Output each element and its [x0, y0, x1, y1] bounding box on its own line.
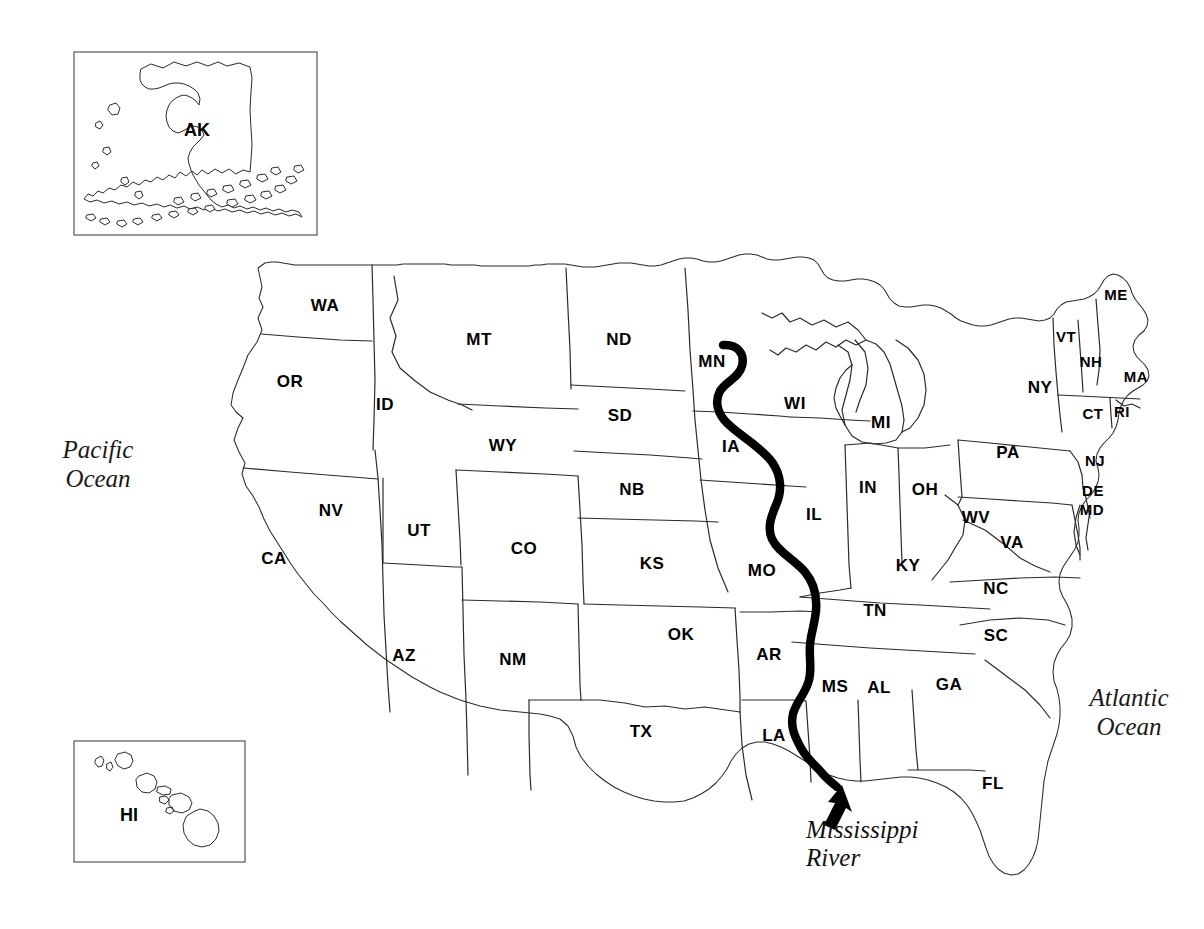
- state-label-co: CO: [511, 539, 538, 558]
- state-label-ri: RI: [1114, 403, 1130, 420]
- state-label-pa: PA: [996, 443, 1019, 462]
- state-label-ar: AR: [756, 645, 782, 664]
- state-label-ms: MS: [822, 677, 849, 696]
- state-label-tx: TX: [630, 722, 653, 741]
- state-label-mn: MN: [698, 352, 725, 371]
- river-label-line1: Mississippi: [805, 816, 919, 843]
- state-label-mo: MO: [748, 561, 776, 580]
- state-label-il: IL: [806, 505, 822, 524]
- atlantic-ocean-line2: Ocean: [1096, 713, 1161, 740]
- state-label-ga: GA: [936, 675, 963, 694]
- us-map: AK HI: [0, 0, 1204, 929]
- state-label-oh: OH: [912, 480, 939, 499]
- state-label-nj: NJ: [1085, 452, 1105, 469]
- state-label-wa: WA: [311, 296, 339, 315]
- hawaii-inset-label: HI: [120, 805, 138, 825]
- state-label-wv: WV: [962, 508, 991, 527]
- state-label-la: LA: [762, 726, 786, 745]
- state-label-me: ME: [1104, 286, 1128, 303]
- state-label-de: DE: [1082, 482, 1104, 499]
- state-label-nb: NB: [619, 480, 645, 499]
- state-label-wy: WY: [489, 436, 518, 455]
- state-label-ia: IA: [722, 437, 740, 456]
- state-label-ok: OK: [668, 625, 695, 644]
- state-label-or: OR: [277, 372, 304, 391]
- state-label-al: AL: [867, 678, 891, 697]
- state-label-mt: MT: [466, 330, 492, 349]
- state-label-nv: NV: [319, 501, 344, 520]
- alaska-inset-label: AK: [184, 120, 210, 140]
- state-label-nh: NH: [1080, 353, 1103, 370]
- state-label-nm: NM: [499, 650, 526, 669]
- state-label-mi: MI: [871, 413, 891, 432]
- state-label-ct: CT: [1083, 405, 1104, 422]
- state-label-fl: FL: [982, 774, 1004, 793]
- state-label-nd: ND: [606, 330, 632, 349]
- pacific-ocean-line1: Pacific: [62, 436, 134, 463]
- river-label-line2: River: [805, 844, 860, 871]
- state-label-tn: TN: [863, 601, 887, 620]
- state-label-ut: UT: [407, 521, 431, 540]
- state-label-ny: NY: [1028, 378, 1053, 397]
- state-label-in: IN: [859, 478, 877, 497]
- state-label-sc: SC: [984, 626, 1009, 645]
- state-label-id: ID: [376, 395, 394, 414]
- state-label-ca: CA: [261, 549, 287, 568]
- state-label-az: AZ: [392, 646, 416, 665]
- state-label-md: MD: [1080, 501, 1104, 518]
- state-label-nc: NC: [983, 579, 1009, 598]
- state-label-sd: SD: [608, 406, 633, 425]
- state-label-ma: MA: [1124, 368, 1148, 385]
- atlantic-ocean-line1: Atlantic: [1087, 684, 1168, 711]
- state-label-va: VA: [1000, 533, 1023, 552]
- pacific-ocean-line2: Ocean: [65, 465, 130, 492]
- alaska-inset: AK: [74, 52, 317, 235]
- state-label-wi: WI: [784, 394, 806, 413]
- hawaii-inset: HI: [74, 741, 245, 862]
- state-label-vt: VT: [1056, 328, 1076, 345]
- state-label-ky: KY: [896, 556, 921, 575]
- state-label-ks: KS: [640, 554, 665, 573]
